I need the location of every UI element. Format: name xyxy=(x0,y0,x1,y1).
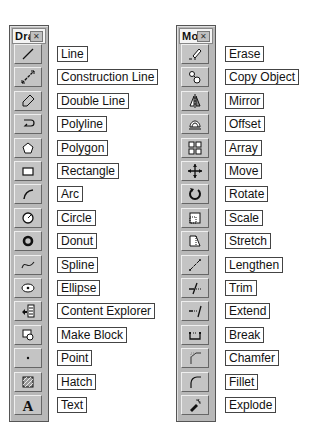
toolbar-button-lengthen[interactable] xyxy=(181,255,209,275)
tooltip-label: Ellipse xyxy=(57,280,100,296)
toolbar-button-circle[interactable] xyxy=(14,208,42,228)
tooltip-label: Lengthen xyxy=(225,257,283,273)
tooltip-label: Array xyxy=(225,140,262,156)
tooltip-label: Rotate xyxy=(225,186,268,202)
toolbar-button-chamfer[interactable] xyxy=(181,348,209,368)
hatch-icon xyxy=(20,374,36,390)
toolbar-button-polyline[interactable] xyxy=(14,114,42,134)
arc-icon xyxy=(20,186,36,202)
toolbar-button-spline[interactable] xyxy=(14,255,42,275)
toolbar-button-line[interactable] xyxy=(14,44,42,64)
toolbar-button-donut[interactable] xyxy=(14,231,42,251)
toolbar-button-break[interactable] xyxy=(181,325,209,345)
rotate-icon xyxy=(187,186,203,202)
make-block-icon xyxy=(20,327,36,343)
ellipse-icon xyxy=(20,280,36,296)
erase-icon xyxy=(187,46,203,62)
tooltip-label: Stretch xyxy=(225,233,271,249)
line-icon xyxy=(20,46,36,62)
mirror-icon xyxy=(187,93,203,109)
break-icon xyxy=(187,327,203,343)
tooltip-label: Trim xyxy=(225,280,257,296)
toolbar-button-move[interactable] xyxy=(181,161,209,181)
move-icon xyxy=(187,163,203,179)
toolbar-button-hatch[interactable] xyxy=(14,372,42,392)
svg-text:A: A xyxy=(23,398,34,413)
tooltip-label: Double Line xyxy=(57,93,129,109)
scale-icon xyxy=(187,210,203,226)
modify-toolbar-title: Mo xyxy=(182,30,198,42)
toolbar-button-explode[interactable] xyxy=(181,395,209,415)
tooltip-label: Offset xyxy=(225,116,265,132)
tooltip-label: Extend xyxy=(225,303,270,319)
toolbar-button-stretch[interactable] xyxy=(181,231,209,251)
tooltip-label: Make Block xyxy=(57,327,127,343)
tooltip-label: Line xyxy=(57,46,88,62)
modify-toolbar-title-bar[interactable]: Mo ✕ xyxy=(179,28,213,44)
offset-icon xyxy=(187,116,203,132)
toolbar-button-rectangle[interactable] xyxy=(14,161,42,181)
tooltip-label: Circle xyxy=(57,210,96,226)
double-line-icon xyxy=(20,93,36,109)
toolbar-button-polygon[interactable] xyxy=(14,138,42,158)
array-icon xyxy=(187,140,203,156)
tooltip-label: Explode xyxy=(225,397,276,413)
copy-object-icon xyxy=(187,69,203,85)
tooltip-label: Mirror xyxy=(225,93,264,109)
spline-icon xyxy=(20,257,36,273)
toolbar-button-mirror[interactable] xyxy=(181,91,209,111)
close-icon[interactable]: ✕ xyxy=(197,31,210,42)
toolbar-button-erase[interactable] xyxy=(181,44,209,64)
tooltip-label: Construction Line xyxy=(57,69,158,85)
toolbar-button-copy-object[interactable] xyxy=(181,67,209,87)
point-icon xyxy=(20,350,36,366)
circle-icon xyxy=(20,210,36,226)
toolbar-button-content-explorer[interactable] xyxy=(14,301,42,321)
toolbar-button-rotate[interactable] xyxy=(181,184,209,204)
rectangle-icon xyxy=(20,163,36,179)
construction-line-icon xyxy=(20,69,36,85)
trim-icon xyxy=(187,280,203,296)
tooltip-label: Move xyxy=(225,163,262,179)
tooltip-label: Hatch xyxy=(57,374,96,390)
toolbar-button-construction-line[interactable] xyxy=(14,67,42,87)
tooltip-label: Point xyxy=(57,350,92,366)
explode-icon xyxy=(187,397,203,413)
tooltip-label: Arc xyxy=(57,186,83,202)
toolbar-button-text[interactable]: A xyxy=(14,395,42,415)
chamfer-icon xyxy=(187,350,203,366)
toolbar-button-double-line[interactable] xyxy=(14,91,42,111)
stretch-icon xyxy=(187,233,203,249)
tooltip-label: Scale xyxy=(225,210,263,226)
toolbar-button-ellipse[interactable] xyxy=(14,278,42,298)
close-icon[interactable]: ✕ xyxy=(30,31,43,42)
toolbar-button-fillet[interactable] xyxy=(181,372,209,392)
polyline-icon xyxy=(20,116,36,132)
toolbar-button-array[interactable] xyxy=(181,138,209,158)
extend-icon xyxy=(187,303,203,319)
lengthen-icon xyxy=(187,257,203,273)
tooltip-label: Text xyxy=(57,397,87,413)
text-icon: A xyxy=(20,397,36,413)
toolbar-button-offset[interactable] xyxy=(181,114,209,134)
fillet-icon xyxy=(187,374,203,390)
toolbar-button-point[interactable] xyxy=(14,348,42,368)
toolbar-button-make-block[interactable] xyxy=(14,325,42,345)
tooltip-label: Rectangle xyxy=(57,163,119,179)
toolbar-button-scale[interactable] xyxy=(181,208,209,228)
draw-toolbar: Dra ✕ A xyxy=(9,25,49,422)
tooltip-label: Chamfer xyxy=(225,350,279,366)
draw-toolbar-title-bar[interactable]: Dra ✕ xyxy=(12,28,46,44)
tooltip-label: Content Explorer xyxy=(57,303,155,319)
tooltip-label: Copy Object xyxy=(225,69,299,85)
toolbar-button-arc[interactable] xyxy=(14,184,42,204)
donut-icon xyxy=(20,233,36,249)
toolbar-button-extend[interactable] xyxy=(181,301,209,321)
modify-toolbar: Mo ✕ xyxy=(176,25,216,422)
tooltip-label: Polyline xyxy=(57,116,107,132)
polygon-icon xyxy=(20,140,36,156)
tooltip-label: Spline xyxy=(57,257,98,273)
tooltip-label: Break xyxy=(225,327,264,343)
toolbar-button-trim[interactable] xyxy=(181,278,209,298)
tooltip-label: Erase xyxy=(225,46,264,62)
